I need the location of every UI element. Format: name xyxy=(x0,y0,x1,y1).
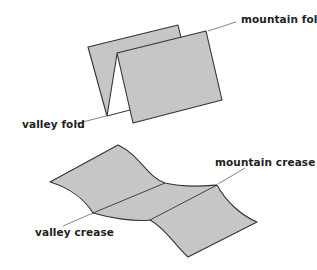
mountain-fold-label: mountain fold xyxy=(241,13,317,25)
valley-crease-label: valley crease xyxy=(35,226,114,238)
mountain-crease-label: mountain crease xyxy=(215,156,315,168)
folded-paper-figure xyxy=(75,22,236,124)
fold-diagram: mountain fold valley fold mountain creas… xyxy=(0,0,317,270)
mountain-fold-leader xyxy=(208,22,236,31)
valley-fold-label: valley fold xyxy=(22,118,85,130)
valley-crease-leader xyxy=(63,213,93,226)
mountain-crease-leader xyxy=(218,168,245,184)
